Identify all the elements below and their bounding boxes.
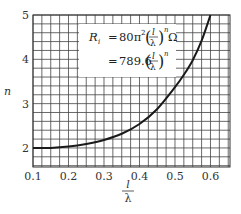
x-tick-label: 0.2 [60, 170, 78, 183]
x-axis-ticks: 0.10.20.30.40.50.6 [24, 170, 219, 183]
svg-text:i: i [98, 38, 100, 46]
svg-text:l: l [152, 51, 155, 61]
svg-text:n: n [164, 50, 169, 58]
y-tick-label: 2 [22, 142, 29, 155]
svg-text:λ: λ [150, 62, 156, 72]
y-axis-ticks: 2345 [22, 9, 29, 155]
svg-text:l: l [126, 178, 130, 191]
svg-text:Ω: Ω [168, 30, 178, 44]
svg-text:l: l [152, 27, 155, 37]
y-tick-label: 3 [22, 98, 29, 111]
y-tick-label: 4 [22, 53, 29, 66]
x-tick-label: 0.1 [24, 170, 42, 183]
y-axis-label: n [4, 85, 11, 98]
svg-text:=: = [108, 54, 118, 68]
svg-text:=: = [108, 30, 118, 44]
svg-text:λ: λ [150, 38, 156, 48]
x-tick-label: 0.6 [202, 170, 220, 183]
svg-text:λ: λ [125, 192, 132, 205]
svg-text:R: R [88, 30, 98, 44]
x-tick-label: 0.4 [131, 170, 149, 183]
svg-text:80π: 80π [119, 30, 142, 44]
x-tick-label: 0.3 [95, 170, 113, 183]
chart: 0.10.20.30.40.50.6 2345 n l λ R i = 80π … [0, 0, 241, 214]
x-tick-label: 0.5 [166, 170, 184, 183]
y-tick-label: 5 [22, 9, 29, 22]
